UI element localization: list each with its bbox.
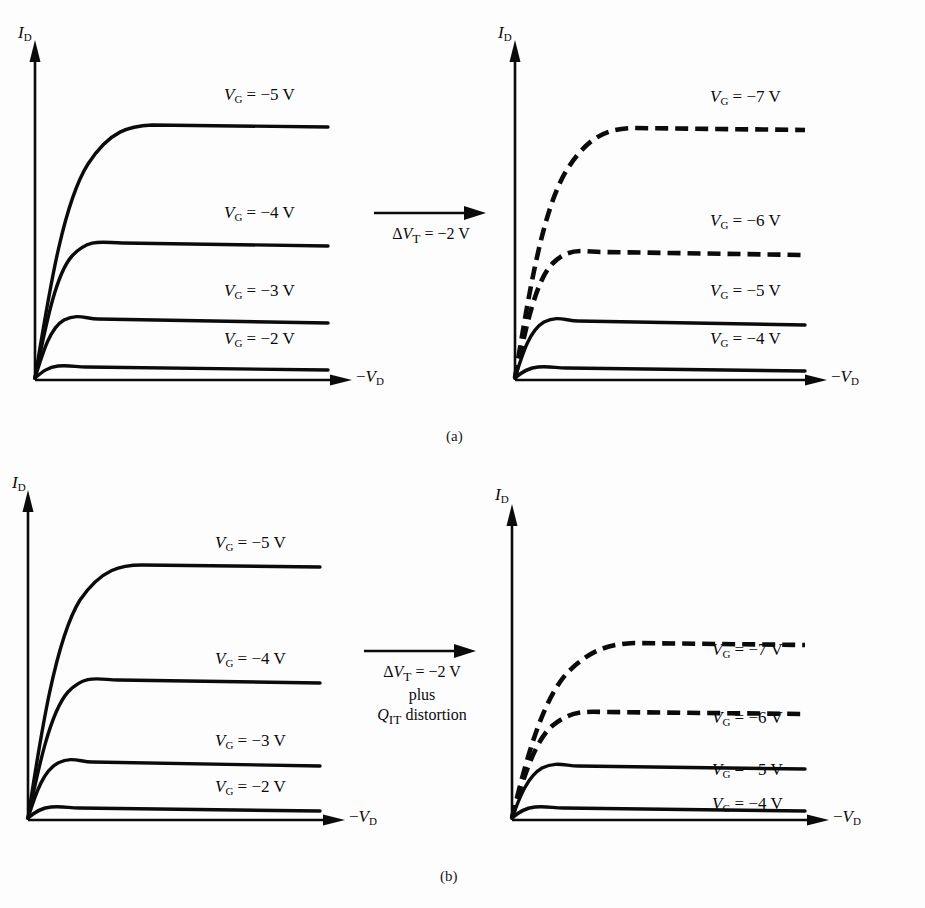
curve-b-vg-minus7	[512, 643, 805, 818]
panel-b-right-x-arrowhead	[807, 815, 829, 826]
panel-b-left-y-axis-label: ID	[12, 474, 26, 493]
panel-a-left-y-axis-label: ID	[18, 24, 32, 43]
panel-b-right-curve-label-1: VG = −6 V	[712, 709, 783, 728]
panel-a-right-x-arrowhead	[805, 375, 827, 386]
panel-a-right-curve-label-3: VG = −4 V	[710, 330, 781, 349]
curve-vg-minus2	[35, 366, 328, 378]
panel-b-right-curve-label-0: VG = −7 V	[712, 641, 783, 660]
panel-b-right-curve-label-2: VG = −5 V	[712, 761, 783, 780]
panel-b-left-curve-label-2: VG = −3 V	[215, 732, 286, 751]
panel-b-right-graphics	[460, 460, 925, 900]
panel-b-left-curve-label-3: VG = −2 V	[215, 778, 286, 797]
panel-a-right-x-axis-label: −VD	[831, 368, 859, 387]
panel-b-right-y-axis-label: ID	[495, 486, 509, 505]
panel-b-right-x-axis-label: −VD	[833, 808, 861, 827]
panel-b-left-x-axis-label: −VD	[349, 808, 377, 827]
curve-vg-minus6	[515, 251, 805, 378]
panel-b-left-curve-label-0: VG = −5 V	[215, 534, 286, 553]
panel-a-right-curve-label-1: VG = −6 V	[710, 212, 781, 231]
panel-a-left-curve-label-3: VG = −2 V	[224, 330, 295, 349]
panel-a-right-curve-label-0: VG = −7 V	[710, 88, 781, 107]
curve-vg-minus4	[35, 242, 328, 378]
figure-root: ID −VD VG = −5 V VG = −4 V VG = −3 V VG …	[0, 0, 925, 908]
panel-b-left-y-arrowhead	[23, 490, 34, 512]
panel-a-left-curve-label-2: VG = −3 V	[224, 282, 295, 301]
panel-b-left-x-arrowhead	[323, 815, 345, 826]
panel-a-left-x-arrowhead	[330, 375, 352, 386]
panel-a-left-y-arrowhead	[30, 40, 41, 62]
panel-a-left-curve-label-1: VG = −4 V	[224, 204, 295, 223]
panel-a-right-curve-label-2: VG = −5 V	[710, 282, 781, 301]
curve-b-vg-minus2	[28, 807, 320, 818]
caption-b: (b)	[440, 868, 458, 885]
panel-a-right-y-arrowhead	[510, 40, 521, 62]
panel-b-left-curve-label-1: VG = −4 V	[215, 650, 286, 669]
panel-b-right-y-arrowhead	[507, 504, 518, 526]
panel-a-left-x-axis-label: −VD	[356, 368, 384, 387]
caption-a: (a)	[446, 428, 463, 445]
panel-a-right-y-axis-label: ID	[498, 24, 512, 43]
curve-vg-minus4-right	[515, 367, 805, 378]
panel-a-left-curve-label-0: VG = −5 V	[224, 86, 295, 105]
panel-b-right-curve-label-3: VG = −4 V	[712, 795, 783, 814]
